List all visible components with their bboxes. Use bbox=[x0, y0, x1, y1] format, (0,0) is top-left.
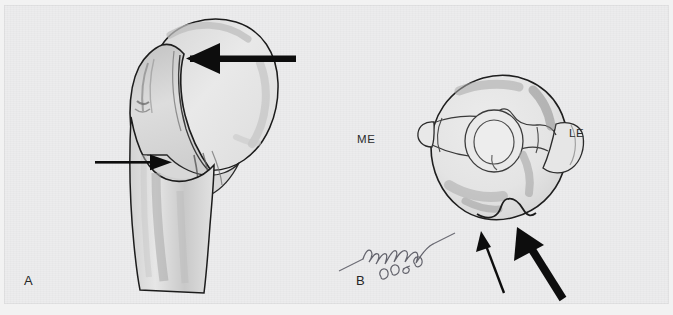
label-medial-epicondyle: ME bbox=[357, 133, 375, 145]
figure-container: A bbox=[0, 0, 673, 315]
thin-arrow-panel-b bbox=[476, 231, 504, 293]
thick-arrow-panel-b bbox=[514, 227, 563, 299]
proximal-humerus-drawing bbox=[4, 5, 337, 304]
panel-a: A bbox=[4, 5, 337, 304]
label-lateral-epicondyle: LE bbox=[569, 127, 584, 139]
olecranon-fossa bbox=[465, 110, 523, 172]
panel-label-a: A bbox=[24, 273, 33, 288]
figure-plate: A bbox=[4, 5, 669, 304]
distal-humerus-drawing bbox=[337, 5, 669, 304]
panel-label-b: B bbox=[356, 273, 365, 288]
medial-epicondyle-lobe bbox=[418, 122, 434, 147]
panel-b: ME LE B bbox=[337, 5, 669, 304]
